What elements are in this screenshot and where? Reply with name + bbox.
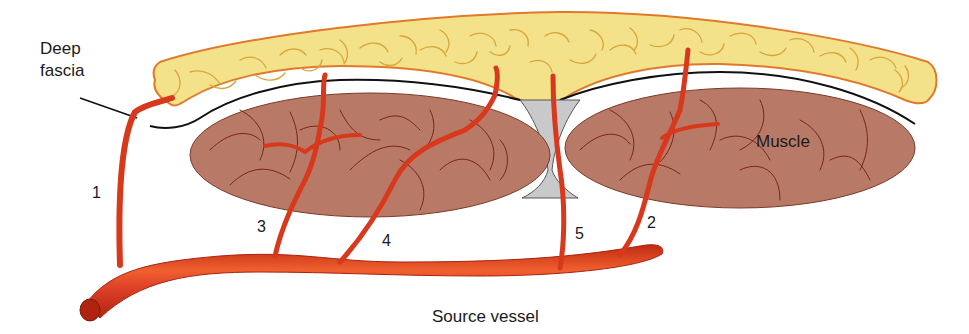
muscle-left (190, 93, 550, 217)
source-vessel-label: Source vessel (432, 307, 539, 326)
subcutaneous-fat-layer (154, 12, 937, 106)
perforator-diagram: Deep fascia Muscle Source vessel 1 3 4 5… (0, 0, 969, 334)
source-vessel (80, 245, 663, 321)
vessel-4-number: 4 (382, 232, 391, 249)
vessel-2-number: 2 (647, 214, 656, 231)
deep-fascia-label-line2: fascia (40, 61, 85, 80)
vessel-5-number: 5 (575, 225, 584, 242)
vessel-3-number: 3 (257, 218, 266, 235)
muscle-right (565, 88, 915, 208)
vessel-1-number: 1 (92, 184, 101, 201)
deep-fascia-leader-line (80, 98, 137, 118)
vessel-1 (119, 98, 172, 265)
muscle-label: Muscle (756, 132, 810, 151)
deep-fascia-label-line1: Deep (40, 39, 81, 58)
